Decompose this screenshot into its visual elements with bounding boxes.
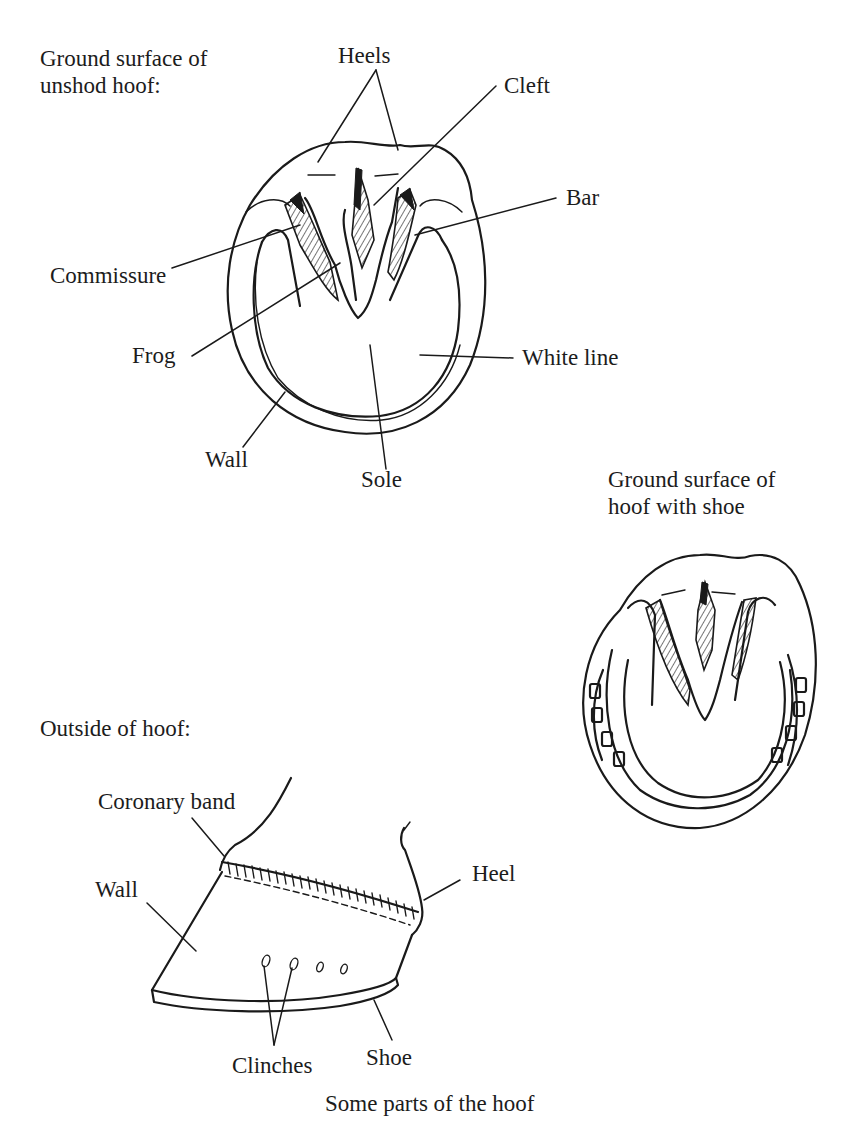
clinch-marks xyxy=(261,954,349,975)
unshod-heading: Ground surface of unshod hoof: xyxy=(40,45,207,99)
unshod-hoof-drawing xyxy=(228,142,486,434)
label-cleft: Cleft xyxy=(504,72,550,99)
label-sole: Sole xyxy=(361,466,402,493)
figure-caption: Some parts of the hoof xyxy=(325,1090,535,1117)
coronary-band-hatching xyxy=(228,862,414,919)
label-heels: Heels xyxy=(338,42,390,69)
label-clinches: Clinches xyxy=(232,1052,313,1079)
label-frog: Frog xyxy=(132,342,175,369)
label-coronary-band: Coronary band xyxy=(98,788,235,815)
label-wall-outside: Wall xyxy=(95,876,138,903)
hoof-diagram-page: Ground surface of unshod hoof: Heels Cle… xyxy=(0,0,855,1146)
label-heel: Heel xyxy=(472,860,515,887)
label-shoe: Shoe xyxy=(366,1044,412,1071)
label-white-line: White line xyxy=(522,344,618,371)
shod-heading: Ground surface of hoof with shoe xyxy=(608,466,775,520)
shod-hoof-drawing xyxy=(583,554,816,828)
label-bar: Bar xyxy=(566,184,599,211)
label-wall-unshod: Wall xyxy=(205,446,248,473)
hoof-illustrations xyxy=(0,0,855,1146)
outside-heading: Outside of hoof: xyxy=(40,715,191,742)
label-commissure: Commissure xyxy=(50,262,166,289)
